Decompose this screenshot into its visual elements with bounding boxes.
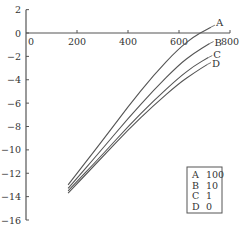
y-tick-label: 0 [15, 28, 21, 39]
legend-value: 10 [206, 180, 218, 191]
x-tick-label: 400 [119, 36, 137, 47]
y-tick-label: −16 [1, 215, 21, 226]
y-tick-label: −8 [7, 121, 21, 132]
series-label-d: D [212, 58, 220, 69]
series-leader [210, 42, 214, 44]
line-chart: 20−2−4−6−8−10−12−14−16 0200400600800 ABC… [0, 0, 241, 232]
legend-key: A [191, 169, 199, 180]
legend-key: D [192, 201, 200, 212]
legend-value: 100 [206, 169, 224, 180]
y-tick-label: −12 [1, 168, 21, 179]
series-label-a: A [215, 17, 224, 28]
y-tick-label: 2 [15, 4, 21, 15]
series-line-d [68, 65, 207, 194]
y-tick-label: −4 [7, 74, 21, 85]
legend-value: 1 [206, 190, 212, 201]
y-tick-label: −6 [7, 98, 21, 109]
series-leader [207, 63, 211, 65]
y-tick-label: −10 [1, 144, 21, 155]
legend-key: C [192, 190, 199, 201]
x-tick-label: 600 [170, 36, 188, 47]
x-tick-label: 200 [68, 36, 86, 47]
legend-key: B [192, 180, 199, 191]
y-axis: 20−2−4−6−8−10−12−14−16 [1, 4, 29, 225]
y-tick-label: −2 [7, 51, 21, 62]
legend: A100B10C1D0 [187, 167, 224, 213]
y-tick-label: −14 [1, 191, 21, 202]
x-tick-label: 800 [221, 36, 239, 47]
x-tick-label: 0 [28, 36, 34, 47]
legend-value: 0 [206, 201, 212, 212]
series-label-b: B [215, 37, 222, 48]
series-leader [211, 25, 215, 27]
